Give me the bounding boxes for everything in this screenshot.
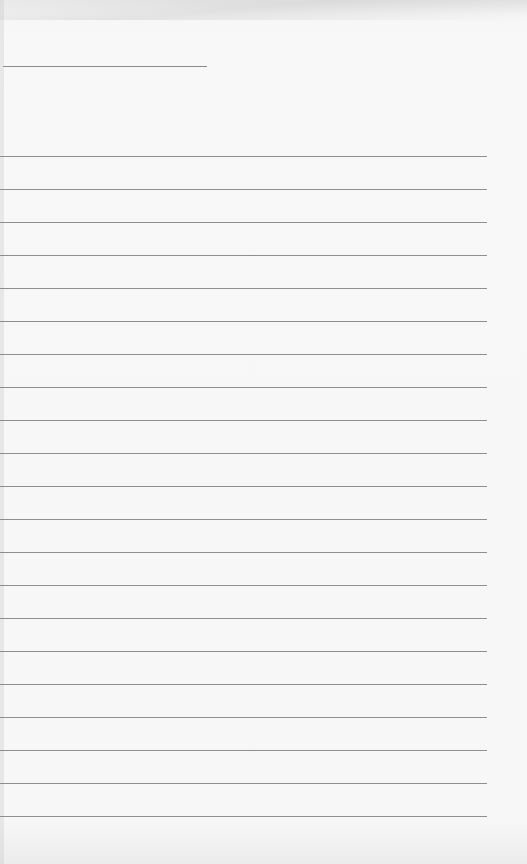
rule-line — [0, 222, 487, 223]
rule-line — [0, 453, 487, 454]
rule-line — [0, 585, 487, 586]
rule-line — [0, 750, 487, 751]
rule-line — [0, 684, 487, 685]
header-name-line — [3, 66, 207, 67]
rule-line — [0, 552, 487, 553]
page-left-edge — [0, 0, 4, 864]
rule-line — [0, 354, 487, 355]
rule-line — [0, 387, 487, 388]
rule-line — [0, 156, 487, 157]
rule-line — [0, 618, 487, 619]
page-top-shadow — [0, 0, 527, 20]
rule-line — [0, 717, 487, 718]
rule-line — [0, 816, 487, 817]
rule-line — [0, 783, 487, 784]
rule-line — [0, 189, 487, 190]
rule-line — [0, 519, 487, 520]
rule-line — [0, 651, 487, 652]
rule-line — [0, 321, 487, 322]
rule-line — [0, 288, 487, 289]
rule-line — [0, 420, 487, 421]
rule-line — [0, 255, 487, 256]
rule-line — [0, 486, 487, 487]
